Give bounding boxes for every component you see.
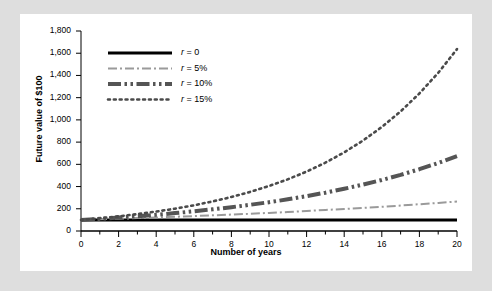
x-tick-label: 2 <box>106 239 132 249</box>
x-tick-label: 4 <box>143 239 169 249</box>
x-tick-label: 0 <box>68 239 94 249</box>
y-tick-label: 400 <box>37 181 71 191</box>
series-group <box>81 49 457 220</box>
series-line-3 <box>81 49 457 220</box>
y-tick-label: 1,000 <box>37 114 71 124</box>
y-tick-label: 1,200 <box>37 92 71 102</box>
chart-svg <box>20 14 472 271</box>
x-tick-label: 16 <box>369 239 395 249</box>
legend-label-2: r = 10% <box>181 78 212 88</box>
x-tick-label: 20 <box>444 239 470 249</box>
x-tick-label: 18 <box>406 239 432 249</box>
series-line-1 <box>81 202 457 220</box>
y-tick-label: 1,600 <box>37 47 71 57</box>
y-tick-label: 1,400 <box>37 69 71 79</box>
x-tick-label: 6 <box>181 239 207 249</box>
figure-panel: Future value of $100 Number of years 020… <box>20 14 472 271</box>
legend-lines-group <box>108 53 172 100</box>
chart-plot-container: Future value of $100 Number of years 020… <box>20 14 472 271</box>
legend-label-3: r = 15% <box>181 94 212 104</box>
legend-label-0: r = 0 <box>181 47 199 57</box>
y-tick-label: 0 <box>37 225 71 235</box>
y-tick-label: 200 <box>37 203 71 213</box>
legend-label-1: r = 5% <box>181 63 207 73</box>
x-tick-label: 8 <box>218 239 244 249</box>
series-line-2 <box>81 156 457 220</box>
x-tick-label: 12 <box>294 239 320 249</box>
y-tick-label: 600 <box>37 158 71 168</box>
y-tick-label: 1,800 <box>37 25 71 35</box>
x-tick-label: 14 <box>331 239 357 249</box>
y-tick-label: 800 <box>37 136 71 146</box>
x-tick-label: 10 <box>256 239 282 249</box>
